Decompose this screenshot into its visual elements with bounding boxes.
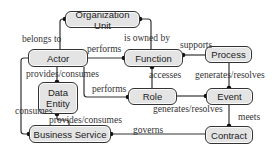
node-business-service[interactable]: Business Service	[29, 125, 111, 143]
label-consumes: consumes	[15, 106, 52, 116]
label-accesses: accesses	[149, 70, 181, 80]
node-label: Process	[211, 49, 245, 60]
node-event[interactable]: Event	[206, 88, 253, 105]
label-belongs-to: belongs to	[22, 34, 61, 44]
label-provides-consumes-actor-data: provides/consumes	[26, 69, 99, 79]
node-label: Actor	[47, 53, 69, 64]
node-function[interactable]: Function	[124, 49, 183, 67]
label-performs-actor-role: performs	[92, 84, 126, 94]
node-label: Organization Unit	[66, 9, 139, 31]
node-label: Event	[217, 91, 241, 102]
label-is-owned-by: is owned by	[124, 33, 170, 43]
label-meets: meets	[238, 112, 260, 122]
node-label: Role	[143, 91, 163, 102]
node-label: Contract	[211, 130, 247, 141]
label-performs-actor-function: performs	[87, 44, 121, 54]
label-governs: governs	[133, 125, 163, 135]
node-organization-unit[interactable]: Organization Unit	[65, 11, 140, 28]
node-contract[interactable]: Contract	[205, 126, 253, 144]
metamodel-diagram: Organization Unit Actor Function Process…	[0, 0, 277, 151]
node-label: Function	[135, 53, 171, 64]
node-role[interactable]: Role	[128, 88, 177, 105]
label-provides-consumes-data-service: provides/consumes	[49, 115, 122, 125]
node-actor[interactable]: Actor	[28, 49, 88, 67]
label-generates-resolves-role-event: generates/resolves	[153, 104, 223, 114]
label-generates-resolves-process-event: generates/resolves	[195, 70, 265, 80]
node-label: Business Service	[34, 129, 107, 140]
label-supports: supports	[180, 40, 212, 50]
